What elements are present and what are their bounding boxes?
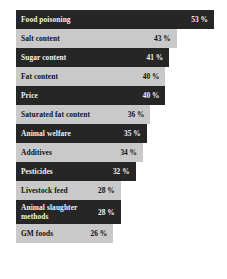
bar-row: Additives34 % <box>16 143 216 162</box>
bar-category-label: Salt content <box>21 34 150 43</box>
bar-category-label: Additives <box>21 148 116 157</box>
bar-category-label: Animal welfare <box>21 129 120 138</box>
bar-list: Food poisoning53 %Salt content43 %Sugar … <box>16 10 216 243</box>
bar-row: Salt content43 % <box>16 29 216 48</box>
bar-category-label: Fat content <box>21 72 139 81</box>
bar-row: Animal welfare35 % <box>16 124 216 143</box>
bar-fill: Livestock feed28 % <box>16 181 121 200</box>
bar-fill: Animal slaughter methods28 % <box>16 200 121 224</box>
bar-category-label: Price <box>21 91 139 100</box>
bar-value-label: 34 % <box>120 148 137 157</box>
bar-row: Pesticides32 % <box>16 162 216 181</box>
bar-fill: GM foods26 % <box>16 224 113 243</box>
bar-row: Animal slaughter methods28 % <box>16 200 216 224</box>
bar-value-label: 28 % <box>98 186 115 195</box>
bar-row: Saturated fat content36 % <box>16 105 216 124</box>
bar-row: Fat content40 % <box>16 67 216 86</box>
bar-row: Price40 % <box>16 86 216 105</box>
bar-category-label: Animal slaughter methods <box>21 203 94 221</box>
bar-row: Food poisoning53 % <box>16 10 216 29</box>
bar-fill: Salt content43 % <box>16 29 177 48</box>
bar-value-label: 40 % <box>143 91 160 100</box>
bar-fill: Pesticides32 % <box>16 162 136 181</box>
bar-value-label: 36 % <box>128 110 145 119</box>
bar-value-label: 35 % <box>124 129 141 138</box>
bar-value-label: 28 % <box>98 208 115 217</box>
bar-value-label: 53 % <box>191 15 208 24</box>
bar-row: Sugar content41 % <box>16 48 216 67</box>
bar-value-label: 40 % <box>143 72 160 81</box>
bar-category-label: Pesticides <box>21 167 109 176</box>
bar-row: GM foods26 % <box>16 224 216 243</box>
bar-fill: Fat content40 % <box>16 67 165 86</box>
bar-row: Livestock feed28 % <box>16 181 216 200</box>
bar-category-label: Sugar content <box>21 53 143 62</box>
bar-fill: Sugar content41 % <box>16 48 169 67</box>
bar-category-label: Saturated fat content <box>21 110 124 119</box>
bar-fill: Animal welfare35 % <box>16 124 147 143</box>
bar-value-label: 32 % <box>113 167 130 176</box>
bar-fill: Price40 % <box>16 86 165 105</box>
bar-category-label: GM foods <box>21 229 86 238</box>
bar-category-label: Livestock feed <box>21 186 94 195</box>
bar-chart: Food poisoning53 %Salt content43 %Sugar … <box>0 0 227 279</box>
bar-value-label: 43 % <box>154 34 171 43</box>
bar-fill: Additives34 % <box>16 143 143 162</box>
bar-value-label: 26 % <box>90 229 107 238</box>
bar-category-label: Food poisoning <box>21 15 187 24</box>
bar-fill: Saturated fat content36 % <box>16 105 150 124</box>
bar-fill: Food poisoning53 % <box>16 10 214 29</box>
bar-value-label: 41 % <box>147 53 164 62</box>
